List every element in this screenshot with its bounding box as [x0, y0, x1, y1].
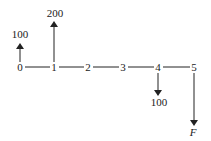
- cash-flow-label-5: F: [189, 126, 197, 138]
- period-label-5: 5: [191, 61, 197, 73]
- period-label-4: 4: [155, 61, 161, 73]
- cash-flow-diagram: 0 1 2 3 4 5 100 200 100 F: [0, 0, 211, 141]
- period-label-1: 1: [51, 61, 57, 73]
- period-label-0: 0: [17, 61, 23, 73]
- cash-flow-label-1: 200: [47, 7, 64, 19]
- cash-flow-label-4: 100: [151, 96, 168, 108]
- period-label-2: 2: [85, 61, 91, 73]
- cash-flow-label-0: 100: [12, 28, 29, 40]
- period-label-3: 3: [120, 61, 126, 73]
